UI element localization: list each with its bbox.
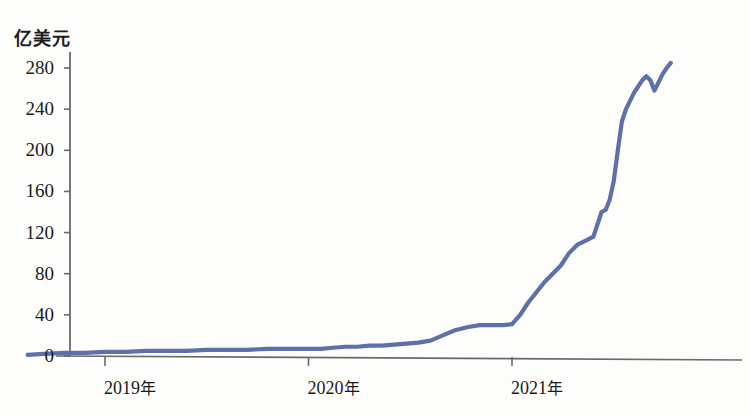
line-chart-figure: 亿美元 04080120160200240280 2019年2020年2021年	[0, 0, 750, 415]
y-axis-tick-label: 160	[8, 180, 54, 202]
y-axis-tick-label: 200	[8, 139, 54, 161]
chart-plot-area	[0, 0, 750, 415]
data-series-line	[28, 63, 671, 355]
y-axis-tick-label: 240	[8, 98, 54, 120]
y-axis-tick-label: 80	[8, 263, 54, 285]
y-axis-tick-label: 120	[8, 222, 54, 244]
y-axis-tick-label: 40	[8, 304, 54, 326]
x-axis-tick-label: 2020年	[308, 375, 360, 399]
x-axis-line	[56, 356, 742, 360]
axis-lines	[56, 52, 742, 360]
y-axis-tick-label: 280	[8, 57, 54, 79]
x-axis-tick-label: 2019年	[104, 375, 156, 399]
x-axis-tick-label: 2021年	[511, 375, 563, 399]
y-axis-tick-label: 0	[8, 345, 54, 367]
